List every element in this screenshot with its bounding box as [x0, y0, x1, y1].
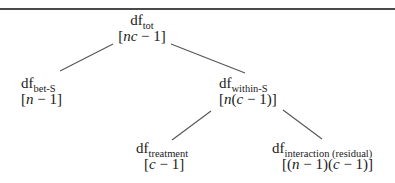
label-subscript: within-S — [232, 83, 268, 94]
node-formula: [(n − 1)(c − 1)] — [272, 157, 373, 172]
label-base: df — [272, 140, 285, 156]
node-df-treatment: dftreatment [c − 1] — [136, 141, 198, 172]
edge-within-to-interaction — [283, 110, 322, 139]
formula-variable: n — [26, 91, 34, 107]
node-formula: [c − 1] — [136, 157, 198, 172]
node-label: dfinteraction (residual) — [272, 141, 373, 157]
node-formula: [nc − 1] — [112, 29, 172, 44]
node-label: dftot — [112, 13, 172, 29]
node-df-interaction-residual: dfinteraction (residual) [(n − 1)(c − 1)… — [272, 141, 373, 172]
formula-variable: nc — [123, 28, 137, 44]
node-df-within-subjects: dfwithin-S [n(c − 1)] — [219, 76, 277, 107]
node-df-between-subjects: dfbet-S [n − 1] — [21, 76, 62, 107]
edge-total-to-within — [171, 44, 245, 73]
node-label: dftreatment — [136, 141, 198, 157]
diagram-canvas: dftot [nc − 1] dfbet-S [n − 1] dfwithin-… — [0, 0, 395, 183]
label-subscript: tot — [143, 20, 154, 31]
label-subscript: bet-S — [34, 83, 56, 94]
node-formula: [n − 1] — [21, 92, 62, 107]
label-base: df — [130, 12, 143, 28]
node-label: dfbet-S — [21, 76, 62, 92]
label-subscript: interaction (residual) — [285, 148, 373, 159]
label-base: df — [21, 75, 34, 91]
label-base: df — [136, 140, 149, 156]
label-base: df — [219, 75, 232, 91]
node-df-total: dftot [nc − 1] — [112, 13, 172, 44]
node-formula: [n(c − 1)] — [219, 92, 277, 107]
label-subscript: treatment — [149, 148, 189, 159]
node-label: dfwithin-S — [219, 76, 277, 92]
edge-within-to-treatment — [172, 111, 211, 140]
formula-variable: n — [224, 91, 232, 107]
edge-total-to-between — [60, 44, 113, 71]
